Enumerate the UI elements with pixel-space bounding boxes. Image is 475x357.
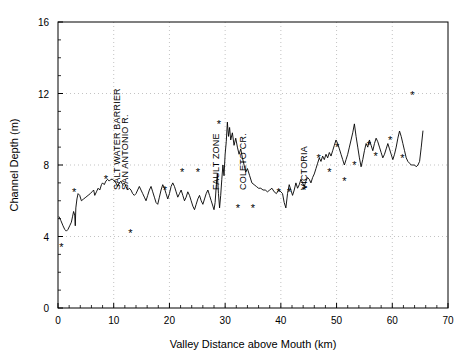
annotation-label: COLETO CR. xyxy=(238,133,248,190)
scatter-marker: * xyxy=(335,141,340,153)
scatter-marker: * xyxy=(236,202,241,214)
scatter-marker: * xyxy=(400,152,405,164)
y-tick-label: 16 xyxy=(38,17,50,28)
x-tick-label: 20 xyxy=(164,315,176,326)
scatter-marker: * xyxy=(59,241,64,253)
y-tick-label: 0 xyxy=(43,303,49,314)
scatter-marker: * xyxy=(180,166,185,178)
y-axis-title: Channel Depth (m) xyxy=(8,119,20,212)
scatter-marker: * xyxy=(327,166,332,178)
x-tick-label: 40 xyxy=(275,315,287,326)
scatter-marker: * xyxy=(196,166,201,178)
x-axis-title: Valley Distance above Mouth (km) xyxy=(170,338,337,350)
y-tick-label: 8 xyxy=(43,160,49,171)
scatter-marker: * xyxy=(410,89,415,101)
scatter-marker: * xyxy=(72,186,77,198)
scatter-marker: * xyxy=(367,139,372,151)
x-tick-label: 10 xyxy=(108,315,120,326)
x-tick-label: 70 xyxy=(442,315,454,326)
scatter-marker: * xyxy=(342,175,347,187)
scatter-marker: * xyxy=(317,152,322,164)
scatter-marker: * xyxy=(251,202,256,214)
scatter-marker: * xyxy=(276,186,281,198)
scatter-marker: * xyxy=(388,134,393,146)
scatter-marker: * xyxy=(373,150,378,162)
scatter-marker: * xyxy=(217,118,222,130)
x-tick-label: 60 xyxy=(387,315,399,326)
scatter-marker: * xyxy=(128,227,133,239)
annotation-label: FAULT ZONE xyxy=(211,133,221,190)
annotation-label: SAN ANTONIO R. xyxy=(120,114,130,190)
annotation-label: VICTORIA xyxy=(299,146,309,190)
x-tick-label: 50 xyxy=(331,315,343,326)
scatter-marker: * xyxy=(163,184,168,196)
x-tick-label: 30 xyxy=(220,315,232,326)
scatter-marker: * xyxy=(287,186,292,198)
channel-depth-profile-chart: *********************** 010203040506070 … xyxy=(0,0,475,357)
scatter-marker: * xyxy=(352,159,357,171)
x-tick-label: 0 xyxy=(55,315,61,326)
chart-figure: *********************** 010203040506070 … xyxy=(0,0,475,357)
y-tick-label: 12 xyxy=(38,89,50,100)
y-tick-label: 4 xyxy=(43,232,49,243)
scatter-marker: * xyxy=(104,173,109,185)
